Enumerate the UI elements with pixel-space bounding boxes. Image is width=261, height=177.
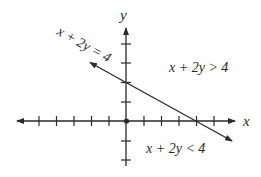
y-axis bbox=[121, 28, 131, 166]
origin-point bbox=[124, 118, 129, 123]
x-axis-label: x bbox=[242, 113, 250, 129]
inequality-graph: y x x + 2y = 4 x + 2y > 4 x + 2y < 4 bbox=[0, 0, 261, 177]
equation-label: x + 2y = 4 bbox=[54, 23, 114, 65]
region-below-label: x + 2y < 4 bbox=[145, 141, 205, 156]
y-axis-label: y bbox=[118, 7, 127, 23]
region-above-label: x + 2y > 4 bbox=[168, 60, 228, 75]
